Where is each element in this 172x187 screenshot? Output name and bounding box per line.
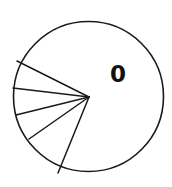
pie-chart-svg (0, 0, 172, 187)
pie-slice-label-0: 0 (110, 63, 126, 86)
pie-chart-figure: 0 (0, 0, 172, 187)
